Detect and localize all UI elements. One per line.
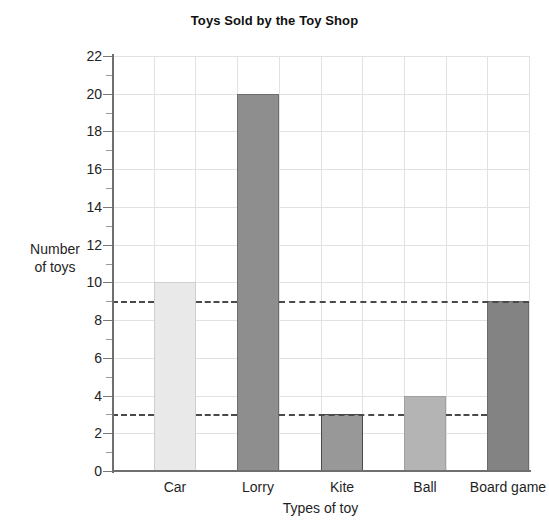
y-tick-major <box>103 358 112 359</box>
y-tick-minor <box>106 226 112 227</box>
y-tick-label: 20 <box>64 87 102 101</box>
bar-lorry <box>237 94 279 471</box>
y-tick-label: 6 <box>64 351 102 365</box>
y-tick-label: 16 <box>64 162 102 176</box>
y-tick-minor <box>106 301 112 302</box>
y-tick-major <box>103 94 112 95</box>
y-tick-label: 10 <box>64 275 102 289</box>
x-tick-label-car: Car <box>134 479 216 495</box>
y-tick-minor <box>106 377 112 378</box>
y-tick-major <box>103 207 112 208</box>
y-tick-minor <box>106 75 112 76</box>
x-tick-label-ball: Ball <box>384 479 466 495</box>
plot-area <box>112 56 529 471</box>
y-tick-label: 22 <box>64 49 102 63</box>
chart-title: Toys Sold by the Toy Shop <box>0 13 549 28</box>
y-tick-major <box>103 245 112 246</box>
y-tick-major <box>103 169 112 170</box>
y-axis-tick-labels: 0246810121416182022 <box>60 56 102 471</box>
gridline-vertical <box>446 56 447 471</box>
y-tick-major <box>103 471 112 472</box>
y-tick-minor <box>106 188 112 189</box>
y-tick-major <box>103 131 112 132</box>
x-axis-line <box>112 470 531 472</box>
reference-line-9 <box>279 301 529 303</box>
bar-ball <box>404 396 446 471</box>
y-tick-minor <box>106 150 112 151</box>
y-tick-major <box>103 282 112 283</box>
y-tick-major <box>103 56 112 57</box>
bar-car <box>154 282 196 471</box>
reference-line-3 <box>112 414 154 416</box>
x-tick-label-lorry: Lorry <box>217 479 299 495</box>
bar-board-game <box>487 301 529 471</box>
y-tick-label: 8 <box>64 313 102 327</box>
reference-line-3 <box>196 414 237 416</box>
bar-kite <box>321 414 363 471</box>
y-tick-minor <box>106 264 112 265</box>
y-tick-label: 2 <box>64 426 102 440</box>
y-tick-minor <box>106 452 112 453</box>
reference-line-9 <box>196 301 237 303</box>
y-tick-major <box>103 433 112 434</box>
gridline-vertical <box>321 56 322 471</box>
reference-line-3 <box>279 414 404 416</box>
x-tick-label-board-game: Board game <box>467 479 549 495</box>
y-tick-label: 18 <box>64 124 102 138</box>
y-tick-minor <box>106 414 112 415</box>
y-tick-label: 12 <box>64 238 102 252</box>
gridline-vertical <box>362 56 363 471</box>
x-axis-tick-labels: CarLorryKiteBallBoard game <box>112 479 542 499</box>
y-tick-label: 14 <box>64 200 102 214</box>
y-tick-minor <box>106 113 112 114</box>
gridline-vertical <box>279 56 280 471</box>
y-tick-major <box>103 320 112 321</box>
x-tick-label-kite: Kite <box>301 479 383 495</box>
reference-line-9 <box>112 301 154 303</box>
scan-edge-artifact <box>8 0 548 5</box>
x-axis-title: Types of toy <box>112 500 529 516</box>
y-axis-ticks <box>112 56 113 471</box>
gridline-vertical <box>529 56 530 471</box>
reference-line-3 <box>446 414 487 416</box>
y-tick-major <box>103 396 112 397</box>
y-tick-label: 0 <box>64 464 102 478</box>
y-tick-label: 4 <box>64 389 102 403</box>
y-tick-minor <box>106 339 112 340</box>
